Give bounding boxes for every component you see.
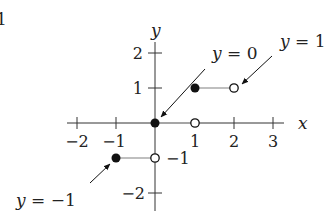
x-tick-label: 1 xyxy=(190,132,200,151)
y-axis-label: y xyxy=(150,20,161,40)
open-endpoint xyxy=(151,154,159,162)
x-tick-label: −2 xyxy=(65,132,89,151)
annotation-y-0: y = 0 xyxy=(211,43,257,63)
open-endpoint xyxy=(230,84,238,92)
y-tick-label: −2 xyxy=(121,184,145,203)
x-axis-label: x xyxy=(298,113,308,133)
annotation-y-minus-1: y = −1 xyxy=(15,190,76,210)
step-function-plot: 1 x y −2 −1 1 2 3 2 1 −1 −2 y = xyxy=(0,0,336,218)
closed-endpoint xyxy=(191,84,200,93)
arrow-y-minus-1 xyxy=(90,164,110,183)
y-tick-label: 2 xyxy=(133,44,143,63)
closed-endpoint xyxy=(112,154,121,163)
closed-endpoint xyxy=(151,119,160,128)
x-tick-label: 2 xyxy=(229,132,239,151)
arrow-y-0 xyxy=(161,69,205,117)
open-endpoint xyxy=(191,119,199,127)
x-tick-label: −1 xyxy=(102,132,126,151)
y-tick-label: −1 xyxy=(166,149,190,168)
x-tick-label: 3 xyxy=(268,132,278,151)
corner-mark: 1 xyxy=(0,9,7,29)
y-tick-label: 1 xyxy=(133,79,143,98)
annotation-y-1: y = 1 xyxy=(279,31,325,51)
